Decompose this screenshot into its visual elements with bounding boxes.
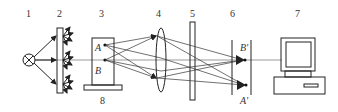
image-spot-a-prime	[237, 80, 248, 90]
object-base	[84, 85, 122, 90]
computer-icon	[274, 38, 325, 94]
label-a: A	[94, 42, 102, 53]
label-4: 4	[156, 8, 161, 19]
light-source-icon	[23, 54, 35, 66]
label-6: 6	[230, 8, 235, 19]
source-rays	[34, 36, 56, 84]
optical-setup-diagram: 1 2 3 4 5 6 7 8 A B	[0, 0, 338, 112]
label-5: 5	[190, 8, 195, 19]
object-to-lens-rays	[105, 36, 161, 78]
label-3: 3	[99, 8, 104, 19]
label-a-prime: A′	[239, 95, 249, 106]
image-spot-b-prime	[236, 55, 247, 65]
label-7: 7	[295, 8, 300, 19]
label-1: 1	[26, 8, 31, 19]
label-8: 8	[100, 95, 105, 106]
plate	[190, 22, 195, 100]
label-b: B	[95, 65, 101, 76]
label-b-prime: B′	[240, 42, 249, 53]
label-2: 2	[57, 8, 62, 19]
